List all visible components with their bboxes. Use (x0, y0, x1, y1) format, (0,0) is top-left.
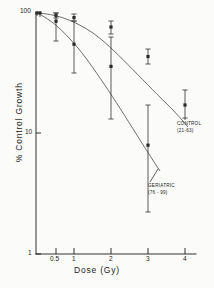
y-axis-title: % Control Growth (15, 67, 24, 177)
geriatric-series-label: GERIATRIC (76 - 99) (148, 183, 175, 196)
geriatric-marker-1 (72, 43, 75, 46)
geriatric-marker-3 (146, 144, 149, 147)
control-marker-4 (183, 103, 186, 106)
survival-curve-chart (0, 0, 214, 288)
geriatric-series-label-line2: (76 - 99) (148, 190, 175, 197)
geriatric-leader-line (150, 169, 158, 182)
geriatric-series-label-line1: GERIATRIC (148, 183, 175, 190)
y-axis-ticks (36, 13, 41, 254)
x-tick-label-1: 1 (72, 256, 76, 263)
axis-lines (36, 13, 196, 254)
geriatric-curve (37, 13, 160, 171)
x-tick-label-2: 2 (109, 256, 113, 263)
x-tick-label-0point5: 0.5 (50, 256, 59, 263)
x-tick-label-4: 4 (183, 256, 187, 263)
y-tick-label-1: 1 (28, 250, 32, 257)
control-marker-0 (35, 11, 38, 14)
control-series-label-line1: CONTROL (177, 121, 201, 128)
geriatric-marker-0 (38, 11, 41, 14)
control-marker-2 (109, 25, 112, 28)
control-series-label: CONTROL (21-63) (177, 121, 201, 134)
control-series-label-line2: (21-63) (177, 128, 201, 135)
x-axis-title: Dose (Gy) (74, 266, 120, 275)
control-marker-3 (146, 55, 149, 58)
control-marker-1 (72, 16, 75, 19)
x-axis-ticks (56, 248, 185, 254)
x-tick-label-3: 3 (146, 256, 150, 263)
control-curve (37, 13, 188, 127)
y-tick-label-100: 100 (20, 8, 31, 15)
geriatric-marker-2 (109, 65, 112, 68)
geriatric-marker-0point5 (54, 20, 57, 23)
y-tick-label-10: 10 (25, 129, 32, 136)
geriatric-data-points (38, 11, 150, 212)
